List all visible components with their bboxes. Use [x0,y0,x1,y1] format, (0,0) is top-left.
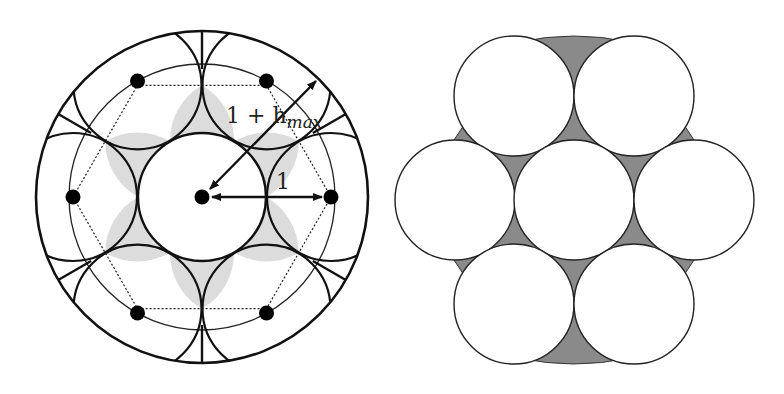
circle-mid-right [634,140,754,260]
outer-radius-label: 1 + hmax [226,103,323,132]
circle-top-right [574,36,694,156]
circle-mid-left [395,140,515,260]
circle-bottom-left [454,244,574,364]
circle-top-left [454,36,574,156]
unit-radius-label: 1 [276,169,290,194]
cell-diagram: 1 + hmax 1 [0,0,400,394]
circle-centre [514,140,634,260]
circle-bottom-right [574,244,694,364]
left-diagram-panel: 1 + hmax 1 [0,0,400,394]
right-diagram-panel [390,0,784,394]
packed-circles [395,36,754,364]
hexagonal-packing-diagram [390,0,784,394]
centre-dot [195,190,210,205]
